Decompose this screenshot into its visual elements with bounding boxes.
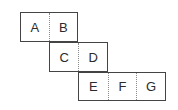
diagram-cell-b[interactable]: B (49, 13, 77, 41)
diagram-cell-d[interactable]: D (78, 43, 107, 71)
diagram-cell-g[interactable]: G (136, 73, 165, 100)
diagram-cell-e[interactable]: E (79, 73, 108, 100)
diagram-canvas: A B C D E F G (0, 0, 178, 110)
diagram-row-1: A B (20, 12, 78, 42)
diagram-row-3: E F G (78, 72, 166, 101)
diagram-cell-c[interactable]: C (50, 43, 78, 71)
diagram-row-2: C D (49, 42, 108, 72)
diagram-cell-a[interactable]: A (21, 13, 49, 41)
diagram-cell-f[interactable]: F (108, 73, 137, 100)
